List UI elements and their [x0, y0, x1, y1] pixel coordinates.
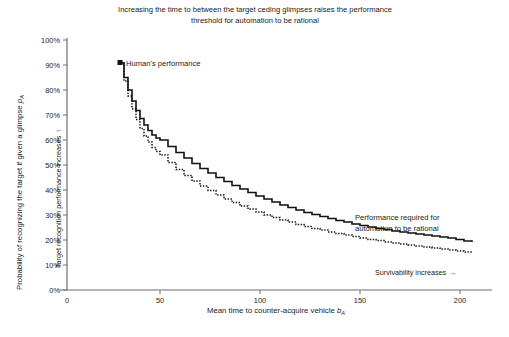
- x-axis-title-main: Mean time to counter-acquire vehicle: [207, 306, 337, 315]
- x-axis-ticks: 050100150200: [65, 290, 466, 305]
- x-tick-label: 100: [254, 296, 266, 305]
- annotation-humans-performance: Human's performance: [126, 59, 200, 68]
- y-axis-title-sub: A: [19, 95, 25, 100]
- y-axis-secondary-text: Target recognition performance increases: [54, 135, 63, 268]
- humans-performance-marker: [118, 60, 123, 65]
- x-tick-label: 0: [65, 296, 69, 305]
- y-axis-title-main: Probability of recognizing the target if…: [15, 103, 24, 290]
- chart-figure: Increasing the time to between the targe…: [0, 0, 509, 337]
- x-axis-title-sub: A: [340, 310, 345, 316]
- up-arrow-icon: ↑: [54, 129, 63, 133]
- y-tick-label: 80%: [45, 86, 60, 95]
- chart-plot-area: 0%10%20%30%40%50%60%70%80%90%100% 050100…: [0, 0, 509, 337]
- right-arrow-icon: →: [449, 268, 456, 277]
- x-axis-title: Mean time to counter-acquire vehicle bA: [207, 306, 345, 316]
- x-tick-label: 50: [156, 296, 164, 305]
- annotation-survivability-increases: Survivability increases→: [375, 268, 456, 277]
- x-tick-label: 150: [354, 296, 366, 305]
- y-axis-secondary-label: Target recognition performance increases…: [54, 129, 63, 268]
- annotation-performance-required-line-2: automation to be rational: [355, 224, 439, 233]
- annotation-performance-required-line-1: Performance required for: [355, 213, 440, 222]
- y-axis-title: Probability of recognizing the target if…: [15, 95, 25, 290]
- y-tick-label: 0%: [49, 286, 60, 295]
- survivability-text: Survivability increases: [375, 268, 447, 277]
- y-tick-label: 90%: [45, 61, 60, 70]
- y-tick-label: 70%: [45, 111, 60, 120]
- y-tick-label: 100%: [41, 36, 60, 45]
- x-tick-label: 200: [454, 296, 466, 305]
